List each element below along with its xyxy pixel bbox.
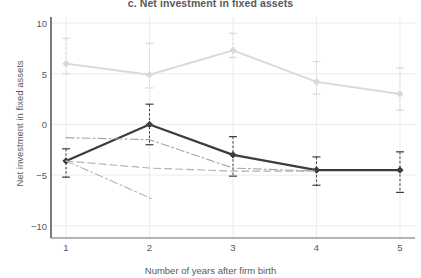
series-line [66,138,316,171]
series-marker [230,47,236,53]
x-tick-label: 4 [314,242,319,253]
series-marker [313,79,319,85]
x-tick-label: 2 [147,242,152,253]
x-tick-label: 3 [230,242,235,253]
chart-figure: c. Net investment in fixed assets Net in… [0,0,421,278]
series-dashdot-series-a [66,138,316,171]
series-marker [397,167,403,173]
plot-canvas [51,17,415,238]
series-marker [63,60,69,66]
y-tick-label: 0 [42,119,47,130]
x-axis-label: Number of years after firm birth [0,265,421,276]
x-tick-label: 1 [63,242,68,253]
series-marker [313,167,319,173]
y-tick-label: −10 [31,220,47,231]
y-tick-label: −5 [36,170,47,181]
series-marker [146,121,152,127]
series-marker [146,72,152,78]
x-tick-label: 5 [397,242,402,253]
series-marker [397,91,403,97]
y-tick-label: 5 [42,68,47,79]
chart-title: c. Net investment in fixed assets [0,0,421,9]
plot-area: 1050−5−10 12345 [51,17,415,238]
y-axis-label: Net investment in fixed assets [14,44,25,204]
series-marker [230,152,236,158]
y-tick-label: 10 [36,18,47,29]
